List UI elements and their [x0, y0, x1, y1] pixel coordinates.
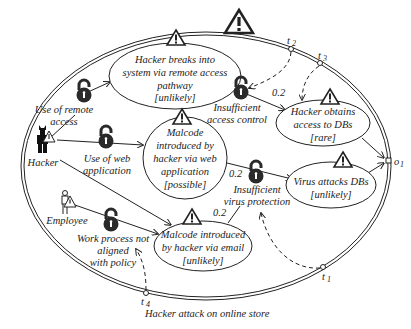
employee-icon — [62, 191, 76, 215]
open-lock-icon — [234, 77, 249, 100]
conditional-likelihood: 0.2 — [272, 87, 286, 98]
svg-text:Hacker obtains: Hacker obtains — [290, 106, 355, 117]
svg-text:Hacker: Hacker — [27, 157, 60, 168]
svg-text:Hacker breaks into: Hacker breaks into — [134, 54, 215, 65]
open-lock-icon — [249, 161, 264, 184]
svg-text:Use of web: Use of web — [84, 153, 131, 164]
gate-t2[interactable]: t 2 — [287, 35, 296, 52]
threat-scenario-obtains-access[interactable]: Hacker obtains access to DBs [rare] — [276, 89, 370, 146]
vulnerability-remote-access[interactable]: Use of remote access — [35, 80, 94, 127]
svg-text:Insufficient: Insufficient — [232, 184, 281, 195]
svg-text:access to DBs: access to DBs — [294, 119, 353, 130]
svg-text:[possible]: [possible] — [164, 179, 207, 190]
svg-text:o: o — [394, 156, 399, 167]
svg-text:[unlikely]: [unlikely] — [154, 92, 195, 103]
actor-employee[interactable]: Employee — [45, 191, 88, 227]
svg-text:Malcode: Malcode — [166, 127, 204, 138]
svg-text:access: access — [50, 116, 77, 127]
conditional-likelihood: 0.2 — [213, 207, 227, 218]
svg-text:t: t — [141, 296, 145, 307]
svg-text:[unlikely]: [unlikely] — [182, 255, 223, 266]
svg-text:1: 1 — [400, 160, 404, 169]
svg-text:3: 3 — [322, 54, 327, 63]
warning-icon — [321, 89, 339, 104]
svg-text:t: t — [322, 271, 326, 282]
svg-text:Insufficient: Insufficient — [212, 102, 261, 113]
gate-t1[interactable]: t 1 — [321, 265, 332, 285]
vulnerability-work-process[interactable]: Work process not aligned with policy — [77, 209, 150, 268]
gate-t4[interactable]: t 4 — [141, 291, 150, 310]
conditional-likelihood: 0.2 — [229, 168, 243, 179]
vulnerability-web-application[interactable]: Use of web application — [83, 126, 131, 176]
warning-icon — [334, 152, 352, 167]
open-lock-icon — [104, 209, 119, 232]
svg-text:t: t — [287, 35, 291, 46]
svg-text:system via remote access: system via remote access — [123, 67, 228, 78]
hacker-icon — [37, 125, 55, 153]
svg-text:virus protection: virus protection — [224, 196, 290, 207]
risk-diagram: t 2 t 3 o 1 t 1 t 4 Hacker attack on onl… — [0, 0, 411, 329]
svg-text:aligned: aligned — [97, 245, 129, 256]
warning-icon — [183, 209, 201, 224]
svg-text:introduced by: introduced by — [156, 140, 214, 151]
svg-text:Virus attacks DBs: Virus attacks DBs — [293, 176, 368, 187]
svg-text:[unlikely]: [unlikely] — [310, 189, 351, 200]
gate-o1[interactable]: o 1 — [386, 156, 404, 169]
warning-icon — [173, 109, 191, 124]
svg-text:1: 1 — [327, 275, 331, 284]
svg-text:access control: access control — [207, 114, 267, 125]
diagram-title: Hacker attack on online store — [144, 308, 270, 319]
svg-text:hacker via web: hacker via web — [153, 153, 217, 164]
svg-text:application: application — [83, 165, 131, 176]
threat-scenario-virus-attacks[interactable]: Virus attacks DBs [unlikely] — [286, 152, 376, 208]
svg-text:by hacker via email: by hacker via email — [162, 242, 245, 253]
threat-scenario-breaks-into[interactable]: Hacker breaks into system via remote acc… — [109, 30, 241, 109]
warning-icon-large — [225, 10, 253, 33]
svg-text:application: application — [161, 166, 209, 177]
svg-text:Use of remote: Use of remote — [35, 104, 94, 115]
svg-text:2: 2 — [292, 39, 296, 48]
svg-text:Employee: Employee — [45, 215, 88, 226]
threat-scenario-malcode-email[interactable]: Malcode introduced by hacker via email [… — [154, 209, 252, 271]
svg-text:Malcode introduced: Malcode introduced — [160, 229, 246, 240]
svg-text:t: t — [318, 50, 322, 61]
actor-hacker[interactable]: Hacker — [27, 125, 60, 168]
svg-text:[rare]: [rare] — [310, 132, 336, 143]
svg-text:with policy: with policy — [90, 257, 137, 268]
open-lock-icon — [77, 80, 92, 103]
svg-text:Work process not: Work process not — [77, 233, 150, 244]
open-lock-icon — [99, 126, 114, 149]
svg-text:pathway: pathway — [156, 80, 193, 91]
